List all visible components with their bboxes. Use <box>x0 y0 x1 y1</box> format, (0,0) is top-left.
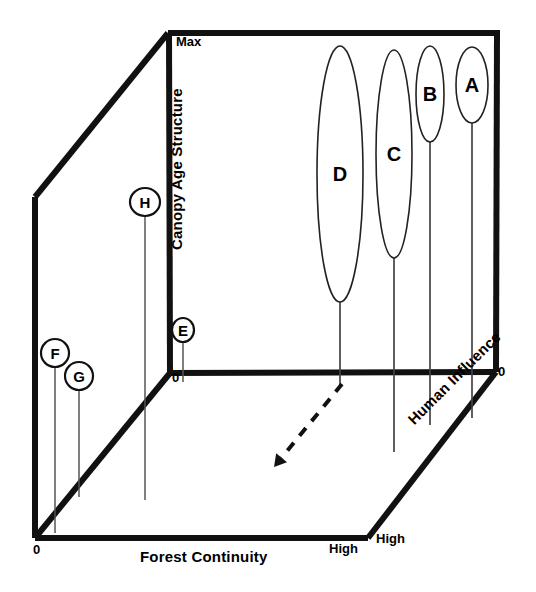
y-axis-title: Canopy Age Structure <box>168 88 185 250</box>
x-axis-zero-label: 0 <box>33 542 40 557</box>
axis-back-right-edge <box>496 33 497 372</box>
marker-label-b: B <box>423 83 437 105</box>
annotation-group <box>274 384 342 467</box>
marker-c[interactable]: C <box>376 50 412 452</box>
marker-label-f: F <box>50 345 59 362</box>
y-axis-zero-label: 0 <box>172 370 179 385</box>
marker-label-h: H <box>140 194 151 211</box>
marker-label-d: D <box>333 163 347 185</box>
x-axis-high-label: High <box>329 541 358 556</box>
marker-label-e: E <box>178 322 188 339</box>
marker-b[interactable]: B <box>416 46 444 425</box>
marker-d[interactable]: D <box>317 46 363 385</box>
marker-label-g: G <box>73 368 85 385</box>
diagram-svg: ABCDEFGH <box>0 0 536 592</box>
marker-h[interactable]: H <box>130 188 160 500</box>
trend-arrow-head <box>274 453 287 467</box>
z-axis-high-label: High <box>376 531 405 546</box>
x-axis-title: Forest Continuity <box>140 548 268 565</box>
diagram-canvas: ABCDEFGH Max 0 0 0 High High Canopy Age … <box>0 0 536 592</box>
marker-label-c: C <box>387 143 401 165</box>
y-axis-max-label: Max <box>176 34 201 49</box>
marker-group: ABCDEFGH <box>41 46 488 533</box>
trend-arrow <box>274 384 342 467</box>
z-axis-zero-label: 0 <box>498 364 505 379</box>
trend-arrow-shaft <box>282 384 342 458</box>
axis-left-top-diagonal <box>35 33 168 197</box>
marker-label-a: A <box>465 74 479 96</box>
